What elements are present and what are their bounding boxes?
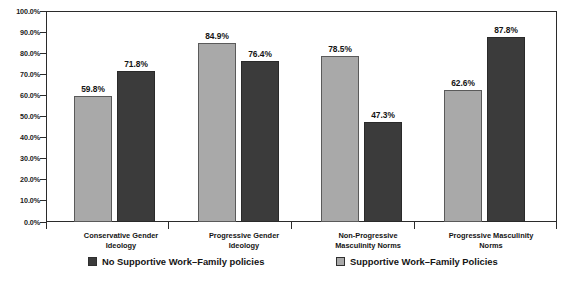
y-axis-tick: 90.0% (0, 26, 46, 38)
y-axis-tick: 0.0% (0, 216, 46, 228)
bar-light[interactable] (198, 43, 236, 222)
bar-dark[interactable] (364, 122, 402, 222)
x-axis-category-line: Masculinity Norms (306, 241, 430, 251)
bar-value-label: 62.6% (436, 78, 490, 88)
bar-value-label: 87.8% (479, 25, 533, 35)
bar-light[interactable] (74, 96, 112, 222)
y-axis-tick: 70.0% (0, 68, 46, 80)
bar-value-label: 59.8% (66, 84, 120, 94)
y-axis-tick: 60.0% (0, 89, 46, 101)
x-axis-separator-tick (414, 222, 415, 229)
x-axis-category-line: Ideology (182, 241, 306, 251)
y-axis-tick: 10.0% (0, 195, 46, 207)
bar-light[interactable] (444, 90, 482, 222)
legend-label: No Supportive Work–Family policies (102, 256, 264, 267)
y-axis-tick: 80.0% (0, 47, 46, 59)
y-axis-tick: 30.0% (0, 153, 46, 165)
x-axis-category-line: Ideology (59, 241, 183, 251)
bar-value-label: 84.9% (190, 31, 244, 41)
bar-value-label: 47.3% (356, 110, 410, 120)
x-axis-category-line: Progressive Gender (182, 231, 306, 241)
bar-dark[interactable] (117, 71, 155, 222)
legend-item-no-supportive: No Supportive Work–Family policies (88, 256, 264, 267)
y-axis-tick: 20.0% (0, 174, 46, 186)
bar-dark[interactable] (487, 37, 525, 222)
x-axis-separator-tick (168, 222, 169, 229)
x-axis-category-line: Progressive Masculinity (429, 231, 553, 241)
bar-value-label: 76.4% (233, 49, 287, 59)
x-axis-category-label: Non-ProgressiveMasculinity Norms (306, 231, 430, 250)
x-axis-category-line: Non-Progressive (306, 231, 430, 241)
x-axis-separator-tick (291, 222, 292, 229)
x-axis-category-line: Conservative Gender (59, 231, 183, 241)
bar-value-label: 71.8% (109, 59, 163, 69)
y-axis-tick: 40.0% (0, 132, 46, 144)
legend-swatch-light-icon (336, 257, 345, 266)
x-axis-category-label: Progressive MasculinityNorms (429, 231, 553, 250)
chart-legend: No Supportive Work–Family policies Suppo… (0, 256, 565, 276)
x-axis-end-tick (556, 222, 557, 229)
legend-swatch-dark-icon (88, 257, 97, 266)
x-axis-end-tick (46, 222, 47, 229)
x-axis-category-label: Conservative GenderIdeology (59, 231, 183, 250)
bar-value-label: 78.5% (313, 44, 367, 54)
legend-item-supportive: Supportive Work–Family Policies (336, 256, 498, 267)
bars-layer: 59.8%71.8%84.9%76.4%78.5%47.3%62.6%87.8% (46, 11, 557, 222)
y-axis-tick: 100.0% (0, 5, 46, 17)
x-axis-category-label: Progressive GenderIdeology (182, 231, 306, 250)
y-axis: 0.0%10.0%20.0%30.0%40.0%50.0%60.0%70.0%8… (0, 0, 46, 222)
bar-light[interactable] (321, 56, 359, 222)
bar-dark[interactable] (241, 61, 279, 222)
y-axis-tick: 50.0% (0, 111, 46, 123)
legend-label: Supportive Work–Family Policies (350, 256, 498, 267)
bar-chart: 0.0%10.0%20.0%30.0%40.0%50.0%60.0%70.0%8… (0, 0, 565, 281)
x-axis-category-line: Norms (429, 241, 553, 251)
